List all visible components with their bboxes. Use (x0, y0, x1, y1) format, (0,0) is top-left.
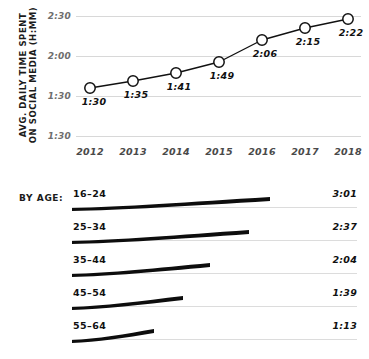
bar-chart-by-age: BY AGE: 16–24 3:01 25–34 2:37 (0, 180, 369, 359)
bar-row: 45–54 1:39 (0, 287, 369, 320)
bar-value-label: 1:39 (333, 287, 357, 298)
bar-row: 16–24 3:01 (0, 188, 369, 221)
x-tick-label: 2015 (205, 146, 233, 157)
x-tick-label: 2018 (334, 146, 362, 157)
x-tick-label: 2014 (162, 146, 190, 157)
bar-stroke (70, 259, 215, 277)
data-point-marker (85, 83, 95, 93)
data-point-label: 1:30 (82, 96, 106, 107)
infographic-figure: AVG. DAILY TIME SPENT ON SOCIAL MEDIA (H… (0, 0, 369, 359)
bar-value-label: 2:37 (333, 221, 357, 232)
data-point-label: 2:06 (253, 48, 277, 59)
data-point-label: 1:49 (210, 70, 234, 81)
data-point-marker (300, 23, 310, 33)
bar-value-label: 3:01 (333, 188, 357, 199)
data-point-marker (214, 57, 224, 67)
y-axis-title: AVG. DAILY TIME SPENT ON SOCIAL MEDIA (H… (13, 5, 43, 145)
data-point-marker (128, 76, 138, 86)
bar-stroke (70, 325, 159, 343)
line-chart-plot-area: 2:30 2:00 1:30 1:30 (64, 10, 361, 140)
x-tick-label: 2012 (76, 146, 104, 157)
bar-stroke (70, 193, 275, 211)
bar-stroke (70, 292, 188, 310)
x-axis: 2012 2013 2014 2015 2016 2017 2018 (64, 146, 361, 164)
data-point-label: 2:22 (339, 27, 363, 38)
x-tick-label: 2016 (248, 146, 276, 157)
y-axis-title-line2: ON SOCIAL MEDIA (H:MM) (28, 7, 38, 143)
bar-row: 35–44 2:04 (0, 254, 369, 287)
data-point-label: 1:35 (124, 89, 148, 100)
bar-row: 25–34 2:37 (0, 221, 369, 254)
data-point-marker (343, 14, 353, 24)
data-point-marker (257, 35, 267, 45)
bar-stroke (70, 226, 254, 244)
bar-row: 55–64 1:13 (0, 320, 369, 353)
y-axis-title-line1: AVG. DAILY TIME SPENT (18, 13, 28, 138)
data-point-marker (171, 68, 181, 78)
bar-value-label: 2:04 (333, 254, 357, 265)
line-chart: AVG. DAILY TIME SPENT ON SOCIAL MEDIA (H… (0, 0, 369, 172)
data-point-label: 1:41 (167, 81, 191, 92)
x-tick-label: 2017 (291, 146, 319, 157)
data-point-label: 2:15 (296, 36, 320, 47)
bar-value-label: 1:13 (333, 320, 357, 331)
x-tick-label: 2013 (119, 146, 147, 157)
